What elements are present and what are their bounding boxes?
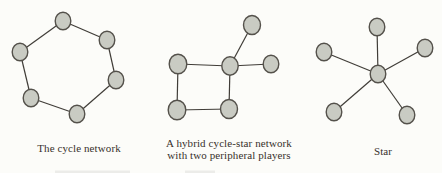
hybrid-cycle-star-network-node: [169, 54, 187, 74]
hybrid-cycle-star-network-node: [221, 100, 238, 119]
star-network-node: [417, 39, 433, 57]
cycle-network-node: [23, 89, 39, 107]
hybrid-cycle-star-network-node: [168, 100, 186, 120]
hybrid-cycle-star-network-node: [222, 57, 238, 75]
hybrid-cycle-star-network-node: [263, 55, 279, 73]
caption-line: Star: [374, 145, 392, 157]
star-network-node: [316, 43, 332, 61]
cycle-network-node: [108, 71, 124, 89]
star-network-node: [370, 65, 386, 83]
cycle-network-node: [69, 105, 85, 123]
network-figure: The cycle network A hybrid cycle-star ne…: [0, 0, 442, 173]
caption-line: A hybrid cycle-star network: [166, 137, 292, 149]
scan-artifact: [55, 171, 130, 174]
cycle-network-node: [12, 43, 28, 61]
caption-star-network: Star: [374, 145, 392, 157]
star-network-node: [399, 106, 415, 124]
cycle-network-node: [55, 12, 71, 30]
scan-artifact: [185, 171, 215, 174]
star-network-node: [326, 103, 342, 121]
hybrid-cycle-star-network-node: [244, 16, 261, 35]
star-network-node: [369, 18, 385, 36]
caption-cycle-network: The cycle network: [37, 142, 121, 154]
caption-line: with two peripheral players: [166, 149, 292, 161]
caption-hybrid-network: A hybrid cycle-star network with two per…: [166, 137, 292, 161]
star-network-edge: [324, 52, 378, 74]
cycle-network-node: [99, 31, 115, 49]
caption-line: The cycle network: [37, 142, 121, 154]
